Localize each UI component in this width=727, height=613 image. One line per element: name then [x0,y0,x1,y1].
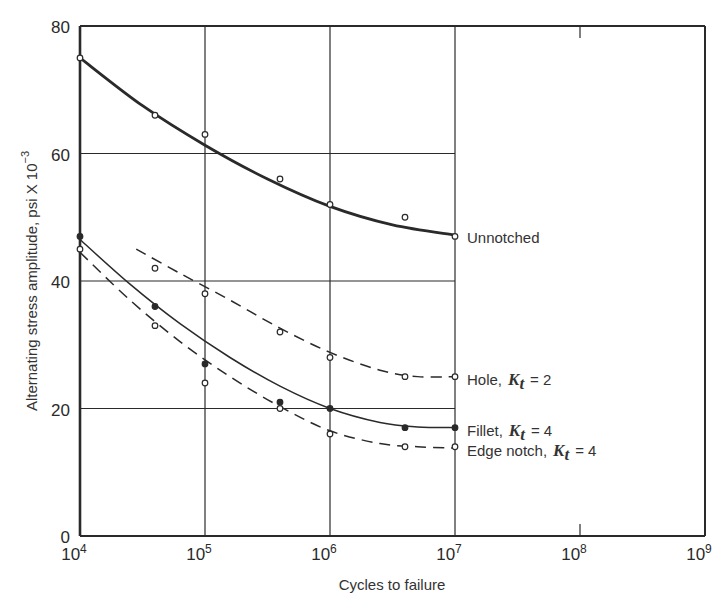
data-point-fillet-kt-4 [152,304,158,310]
y-tick-label: 20 [51,401,70,420]
data-point-unnotched [152,112,158,118]
y-tick-label: 60 [51,146,70,165]
y-tick-label: 80 [51,18,70,37]
x-tick-label: 108 [561,542,587,564]
curve-edge-notch-kt-4 [80,252,455,448]
data-point-edge-notch-kt-4 [452,444,458,450]
grid-lines [80,26,580,536]
data-point-edge-notch-kt-4 [152,323,158,329]
data-point-hole-kt-2 [452,374,458,380]
sn-fatigue-chart: 020406080 104105106107108109 UnnotchedHo… [0,0,727,613]
x-axis-tick-labels: 104105106107108109 [61,542,712,564]
data-point-edge-notch-kt-4 [202,380,208,386]
x-tick-label: 105 [186,542,212,564]
y-axis-tick-labels: 020406080 [51,18,70,547]
data-point-fillet-kt-4 [402,425,408,431]
data-point-fillet-kt-4 [202,361,208,367]
data-point-hole-kt-2 [402,374,408,380]
curve-unnotched [80,58,455,235]
x-axis-title: Cycles to failure [339,576,446,593]
series-label-fillet-kt-4: Fillet,Kt= 4 [467,421,552,444]
x-tick-label: 106 [311,542,337,564]
curve-hole-kt-2 [136,249,455,377]
data-point-fillet-kt-4 [452,425,458,431]
series-label-edge-notch-kt-4: Edge notch,Kt= 4 [467,441,596,464]
series-markers [77,55,458,449]
series-label-unnotched: Unnotched [467,229,540,246]
x-tick-label: 107 [436,542,462,564]
data-point-unnotched [202,132,208,138]
data-point-unnotched [327,202,333,208]
series-labels: UnnotchedHole,Kt= 2Fillet,Kt= 4Edge notc… [467,229,596,464]
series-curves [80,58,455,448]
data-point-hole-kt-2 [277,329,283,335]
data-point-unnotched [402,214,408,220]
data-point-fillet-kt-4 [77,234,83,240]
x-tick-label: 109 [686,542,712,564]
data-point-unnotched [277,176,283,182]
data-point-edge-notch-kt-4 [402,444,408,450]
y-tick-label: 40 [51,273,70,292]
data-point-hole-kt-2 [327,355,333,361]
series-label-hole-kt-2: Hole,Kt= 2 [467,370,551,393]
data-point-edge-notch-kt-4 [277,406,283,412]
data-point-hole-kt-2 [202,291,208,297]
data-point-hole-kt-2 [152,265,158,271]
data-point-edge-notch-kt-4 [77,246,83,252]
x-tick-label: 104 [61,542,87,564]
data-point-fillet-kt-4 [327,406,333,412]
data-point-fillet-kt-4 [277,399,283,405]
y-axis-title: Alternating stress amplitude, psi X 10−3 [19,151,40,411]
data-point-edge-notch-kt-4 [327,431,333,437]
data-point-unnotched [77,55,83,61]
data-point-unnotched [452,234,458,240]
